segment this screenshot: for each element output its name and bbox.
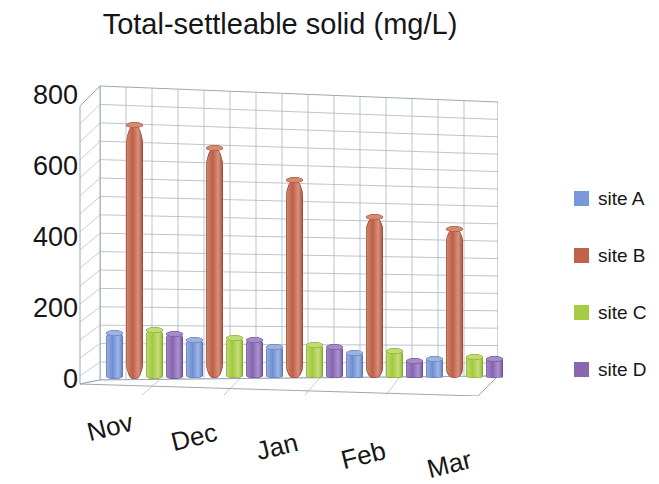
legend-swatch-icon (574, 191, 589, 206)
legend-label: site C (598, 303, 647, 322)
legend-swatch-icon (574, 305, 589, 320)
x-axis-label-dec: Dec (168, 417, 220, 458)
chart-legend: site A site B site C site D (574, 186, 659, 414)
legend-swatch-icon (574, 362, 589, 377)
x-axis-label-feb: Feb (338, 435, 389, 476)
legend-label: site D (598, 360, 647, 379)
legend-item-site-c[interactable]: site C (574, 300, 659, 324)
x-axis-label-mar: Mar (424, 444, 475, 484)
legend-label: site A (598, 189, 644, 208)
legend-item-site-a[interactable]: site A (574, 186, 659, 210)
legend-swatch-icon (574, 248, 589, 263)
legend-item-site-d[interactable]: site D (574, 357, 659, 381)
legend-item-site-b[interactable]: site B (574, 243, 659, 267)
x-axis-label-nov: Nov (84, 407, 136, 448)
x-axis-label-jan: Jan (253, 427, 301, 467)
chart-container: Total-settleable solid (mg/L) 800 600 40… (0, 0, 659, 484)
legend-label: site B (598, 246, 646, 265)
x-axis: Nov Dec Jan Feb Mar (0, 0, 659, 484)
